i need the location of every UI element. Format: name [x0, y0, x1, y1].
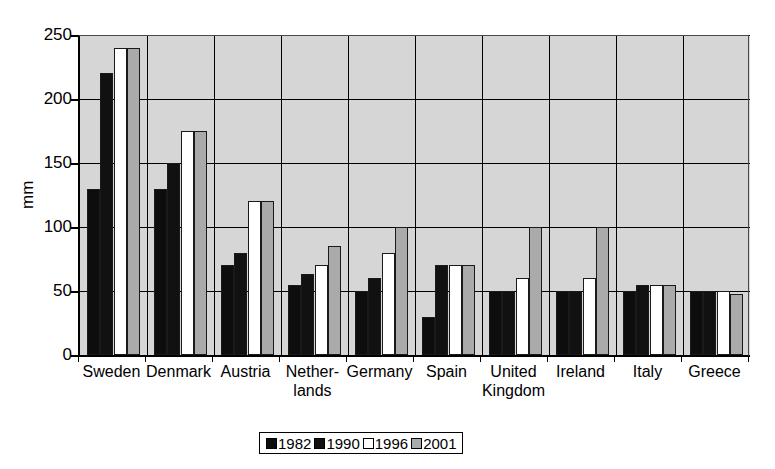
bar: [556, 291, 569, 355]
bar: [248, 201, 261, 355]
bar: [127, 48, 140, 355]
bar: [167, 163, 180, 355]
x-category-label-line: lands: [256, 381, 370, 400]
bar: [194, 131, 207, 355]
legend-label: 1996: [375, 436, 409, 451]
bar: [690, 291, 703, 355]
y-tick-mark: [71, 99, 79, 101]
legend-item: 2001: [409, 436, 457, 451]
bar-chart: mm 050100150200250 SwedenDenmarkAustriaN…: [0, 0, 775, 469]
x-tick-mark: [614, 356, 615, 362]
y-tick-mark: [71, 35, 79, 37]
bar: [502, 291, 515, 355]
x-tick-mark: [279, 356, 280, 362]
bar: [154, 189, 167, 355]
legend-swatch-icon: [363, 438, 374, 449]
legend-label: 2001: [423, 436, 457, 451]
bar: [234, 253, 247, 355]
x-tick-mark: [480, 356, 481, 362]
bar-group: [147, 35, 214, 355]
bar: [422, 317, 435, 355]
y-tick-mark: [71, 227, 79, 229]
bar: [529, 227, 542, 355]
bar-group: [348, 35, 415, 355]
y-tick-label: 200: [20, 90, 72, 108]
bar: [516, 278, 529, 355]
x-tick-mark: [681, 356, 682, 362]
bar: [596, 227, 609, 355]
x-tick-mark: [145, 356, 146, 362]
bar: [355, 291, 368, 355]
bar: [181, 131, 194, 355]
x-category-label: Greece: [658, 362, 772, 381]
bar: [730, 294, 743, 355]
bar: [569, 291, 582, 355]
bar: [395, 227, 408, 355]
x-tick-mark: [547, 356, 548, 362]
bar: [663, 285, 676, 355]
bar-group: [683, 35, 750, 355]
plot-frame-top: [78, 35, 749, 36]
x-tick-mark: [78, 356, 79, 362]
y-tick-label: 50: [20, 282, 72, 300]
bar: [221, 265, 234, 355]
bar: [301, 274, 314, 355]
legend-label: 1990: [326, 436, 360, 451]
bar: [368, 278, 381, 355]
x-tick-mark: [212, 356, 213, 362]
x-category-label-line: Kingdom: [457, 381, 571, 400]
plot-area: [78, 35, 750, 357]
legend-swatch-icon: [411, 438, 422, 449]
bar: [288, 285, 301, 355]
y-tick-label: 150: [20, 154, 72, 172]
bar-group: [549, 35, 616, 355]
bar: [328, 246, 341, 355]
bar-group: [616, 35, 683, 355]
bar: [703, 291, 716, 355]
bar: [315, 265, 328, 355]
x-tick-mark: [346, 356, 347, 362]
bar: [462, 265, 475, 355]
legend-item: 1982: [264, 436, 312, 451]
bar: [87, 189, 100, 355]
bar: [650, 285, 663, 355]
plot-frame-right: [748, 35, 749, 356]
bar: [382, 253, 395, 355]
bar: [623, 291, 636, 355]
x-tick-mark: [748, 356, 749, 362]
legend-swatch-icon: [266, 438, 277, 449]
legend-swatch-icon: [314, 438, 325, 449]
bar-group: [281, 35, 348, 355]
x-category-label-line: Greece: [658, 362, 772, 381]
bar: [114, 48, 127, 355]
bar-group: [415, 35, 482, 355]
y-tick-label: 250: [20, 26, 72, 44]
y-tick-mark: [71, 163, 79, 165]
bar: [717, 291, 730, 355]
y-tick-label: 100: [20, 218, 72, 236]
chart-legend: 1982199019962001: [259, 432, 463, 454]
x-axis-category-labels: SwedenDenmarkAustriaNether-landsGermanyS…: [78, 362, 748, 412]
x-tick-mark: [413, 356, 414, 362]
bar-group: [214, 35, 281, 355]
bar: [449, 265, 462, 355]
y-tick-mark: [71, 291, 79, 293]
bar: [636, 285, 649, 355]
bar: [583, 278, 596, 355]
bar: [261, 201, 274, 355]
bar: [489, 291, 502, 355]
bar: [100, 73, 113, 355]
legend-item: 1990: [312, 436, 360, 451]
bar-group: [80, 35, 147, 355]
bar-group: [482, 35, 549, 355]
legend-label: 1982: [278, 436, 312, 451]
y-axis-tick-labels: 050100150200250: [20, 26, 72, 346]
legend-item: 1996: [361, 436, 409, 451]
bar: [435, 265, 448, 355]
